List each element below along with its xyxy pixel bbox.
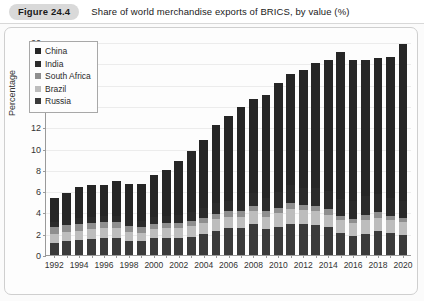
bar-segment-china: [361, 60, 370, 196]
x-axis-tick-label: 2012: [294, 260, 313, 270]
bar-segment-india: [311, 188, 320, 206]
bar-column[interactable]: 2004: [197, 43, 209, 255]
stacked-bar[interactable]: [386, 57, 395, 255]
bar-segment-russia: [112, 238, 121, 255]
x-axis-tick-mark: [341, 255, 342, 258]
bar-column[interactable]: 2018: [372, 43, 384, 255]
stacked-bar[interactable]: [237, 107, 246, 255]
stacked-bar[interactable]: [150, 175, 159, 255]
y-axis-label: Percentage: [7, 53, 17, 133]
bar-column[interactable]: 2020: [397, 43, 409, 255]
stacked-bar[interactable]: [262, 95, 271, 255]
bar-segment-china: [125, 184, 134, 220]
x-axis-tick-mark: [154, 255, 155, 258]
stacked-bar[interactable]: [62, 193, 71, 255]
y-axis-tick-label: 6: [36, 187, 41, 197]
stacked-bar[interactable]: [199, 140, 208, 255]
bar-column[interactable]: [135, 43, 147, 255]
bar-segment-russia: [87, 239, 96, 255]
bar-segment-russia: [137, 241, 146, 255]
x-axis-tick-mark: [191, 255, 192, 258]
y-axis-tick-label: 10: [31, 145, 41, 155]
x-axis-tick-mark: [141, 255, 142, 258]
bar-segment-india: [150, 217, 159, 224]
bar-segment-china: [386, 57, 395, 198]
bar-column[interactable]: 2010: [272, 43, 284, 255]
bar-segment-india: [162, 216, 171, 223]
bar-column[interactable]: 2002: [173, 43, 185, 255]
x-axis-tick-mark: [328, 255, 329, 258]
bar-column[interactable]: [310, 43, 322, 255]
x-axis-tick-mark: [316, 255, 317, 258]
stacked-bar[interactable]: [162, 170, 171, 255]
x-axis-tick-mark: [303, 255, 304, 258]
stacked-bar[interactable]: [286, 74, 295, 255]
legend-item-label: China: [45, 46, 67, 56]
stacked-bar[interactable]: [311, 63, 320, 255]
stacked-bar[interactable]: [336, 52, 345, 255]
legend-item-china[interactable]: China: [35, 45, 91, 58]
stacked-bar[interactable]: [137, 184, 146, 255]
bar-column[interactable]: [285, 43, 297, 255]
stacked-bar[interactable]: [50, 198, 59, 255]
bar-segment-russia: [336, 233, 345, 255]
stacked-bar[interactable]: [87, 185, 96, 255]
x-axis-tick-mark: [266, 255, 267, 258]
figure-number-badge: Figure 24.4: [9, 4, 79, 20]
bar-column[interactable]: 2000: [148, 43, 160, 255]
stacked-bar[interactable]: [374, 58, 383, 255]
x-axis-tick-mark: [229, 255, 230, 258]
bar-column[interactable]: [185, 43, 197, 255]
bar-column[interactable]: 2012: [297, 43, 309, 255]
stacked-bar[interactable]: [274, 83, 283, 256]
bar-column[interactable]: [235, 43, 247, 255]
bar-column[interactable]: 2014: [322, 43, 334, 255]
legend-item-brazil[interactable]: Brazil: [35, 83, 91, 96]
stacked-bar[interactable]: [249, 99, 258, 256]
bar-segment-brazil: [311, 211, 320, 225]
bar-column[interactable]: 1998: [123, 43, 135, 255]
x-axis-tick-mark: [278, 255, 279, 258]
bar-segment-russia: [212, 231, 221, 255]
legend-item-label: South Africa: [45, 71, 91, 81]
bar-column[interactable]: [384, 43, 396, 255]
bar-segment-brazil: [349, 223, 358, 236]
bar-column[interactable]: 2016: [347, 43, 359, 255]
stacked-bar[interactable]: [212, 125, 221, 255]
stacked-bar[interactable]: [100, 185, 109, 255]
bar-segment-brazil: [162, 228, 171, 238]
bar-column[interactable]: 1996: [98, 43, 110, 255]
bar-segment-india: [374, 194, 383, 212]
legend-item-russia[interactable]: Russia: [35, 95, 91, 108]
y-axis-tick-label: 4: [36, 208, 41, 218]
bar-column[interactable]: [110, 43, 122, 255]
legend-item-south-africa[interactable]: South Africa: [35, 70, 91, 83]
figure-caption-bar: Figure 24.4 Share of world merchandise e…: [0, 0, 424, 24]
x-axis-tick-mark: [104, 255, 105, 258]
bar-column[interactable]: [359, 43, 371, 255]
bar-column[interactable]: [260, 43, 272, 255]
bar-segment-brazil: [336, 220, 345, 233]
stacked-bar[interactable]: [299, 70, 308, 255]
stacked-bar[interactable]: [75, 187, 84, 255]
x-axis-tick-mark: [92, 255, 93, 258]
stacked-bar[interactable]: [224, 116, 233, 255]
bar-column[interactable]: 2008: [247, 43, 259, 255]
stacked-bar[interactable]: [324, 60, 333, 255]
stacked-bar[interactable]: [361, 60, 370, 255]
bar-column[interactable]: [210, 43, 222, 255]
bar-column[interactable]: [334, 43, 346, 255]
bar-segment-india: [386, 198, 395, 216]
x-axis-tick-label: 2016: [344, 260, 363, 270]
bar-segment-brazil: [374, 218, 383, 231]
x-axis-tick-mark: [216, 255, 217, 258]
stacked-bar[interactable]: [125, 184, 134, 255]
bar-column[interactable]: 2006: [222, 43, 234, 255]
legend-item-india[interactable]: India: [35, 58, 91, 71]
stacked-bar[interactable]: [187, 151, 196, 255]
bar-column[interactable]: [160, 43, 172, 255]
stacked-bar[interactable]: [112, 181, 121, 256]
stacked-bar[interactable]: [349, 60, 358, 255]
stacked-bar[interactable]: [399, 44, 408, 255]
stacked-bar[interactable]: [174, 161, 183, 255]
